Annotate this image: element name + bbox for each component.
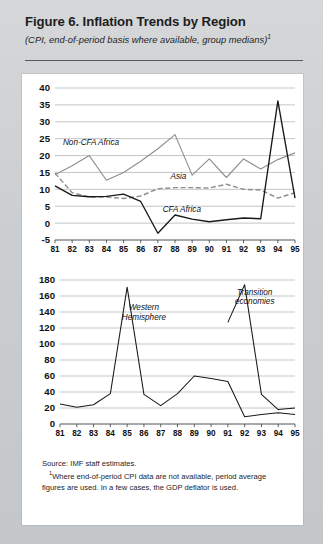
y-axis-tick-label: 5 (45, 201, 51, 212)
series-line-western-hemisphere (60, 287, 295, 417)
y-axis-tick-label: 35 (39, 99, 50, 110)
chart1-svg: -505101520253035408182838485868788899091… (22, 80, 303, 262)
source-note: Source: IMF staff estimates. (42, 458, 291, 469)
y-axis-tick-label: 20 (44, 402, 55, 413)
footnote-note: 1Where end-of-period CPI data are not av… (42, 469, 291, 493)
footnote-text: Where end-of-period CPI data are not ava… (42, 472, 266, 492)
y-axis-tick-label: 0 (45, 218, 50, 229)
series-annotation: Western (129, 303, 160, 312)
y-axis-tick-label: 40 (44, 386, 55, 397)
x-axis-tick-label: 91 (223, 429, 233, 438)
x-axis-tick-label: 95 (290, 245, 300, 254)
figure-subtitle: (CPI, end-of-period basis where availabl… (25, 33, 305, 46)
subtitle-footnote-marker: 1 (267, 33, 271, 40)
y-axis-tick-label: 30 (39, 116, 50, 127)
y-axis-tick-label: 160 (39, 290, 55, 301)
y-axis-tick-label: 40 (39, 82, 50, 93)
x-axis-tick-label: 86 (139, 429, 149, 438)
y-axis-tick-label: 180 (39, 274, 55, 285)
x-axis-tick-label: 81 (50, 245, 60, 254)
y-axis-tick-label: -5 (41, 234, 50, 245)
figure-container: Figure 6. Inflation Trends by Region (CP… (0, 0, 323, 544)
chart-inflation-hemisphere-transition: 0204060801001201401601808182838485868788… (22, 270, 303, 446)
page-title: Figure 6. Inflation Trends by Region (25, 14, 305, 29)
x-axis-tick-label: 94 (273, 245, 283, 254)
x-axis-tick-label: 82 (68, 245, 78, 254)
x-axis-tick-label: 88 (173, 429, 183, 438)
x-axis-tick-label: 85 (123, 429, 133, 438)
chart-inflation-regions: -505101520253035408182838485868788899091… (22, 80, 303, 262)
x-axis-tick-label: 86 (136, 245, 146, 254)
x-axis-tick-label: 90 (205, 245, 215, 254)
series-annotation: Non-CFA Africa (63, 138, 120, 147)
x-axis-tick-label: 93 (257, 429, 267, 438)
x-axis-tick-label: 83 (85, 245, 95, 254)
x-axis-tick-label: 91 (222, 245, 232, 254)
y-axis-tick-label: 0 (50, 418, 55, 429)
x-axis-tick-label: 83 (89, 429, 99, 438)
y-axis-tick-label: 80 (44, 354, 55, 365)
x-axis-tick-label: 92 (240, 429, 250, 438)
x-axis-tick-label: 95 (290, 429, 300, 438)
series-annotation: Transition (237, 288, 273, 297)
chart2-svg: 0204060801001201401601808182838485868788… (22, 270, 303, 446)
x-axis-tick-label: 89 (190, 429, 200, 438)
chart-panel: -505101520253035408182838485868788899091… (22, 74, 303, 525)
y-axis-tick-label: 10 (39, 184, 50, 195)
x-axis-tick-label: 89 (188, 245, 198, 254)
series-annotation: economies (235, 297, 275, 306)
y-axis-tick-label: 140 (39, 306, 55, 317)
x-axis-tick-label: 84 (106, 429, 116, 438)
x-axis-tick-label: 87 (153, 245, 163, 254)
x-axis-tick-label: 84 (102, 245, 112, 254)
y-axis-tick-label: 25 (39, 133, 50, 144)
figure-subtitle-text: (CPI, end-of-period basis where availabl… (25, 34, 267, 45)
series-annotation: Hemisphere (122, 313, 167, 322)
series-annotation: CFA Africa (163, 205, 202, 214)
figure-header: Figure 6. Inflation Trends by Region (CP… (25, 14, 305, 46)
x-axis-tick-label: 85 (119, 245, 129, 254)
x-axis-tick-label: 93 (256, 245, 266, 254)
x-axis-tick-label: 82 (72, 429, 82, 438)
x-axis-tick-label: 88 (170, 245, 180, 254)
y-axis-tick-label: 60 (44, 370, 55, 381)
x-axis-tick-label: 90 (207, 429, 217, 438)
x-axis-tick-label: 94 (274, 429, 284, 438)
x-axis-tick-label: 81 (55, 429, 65, 438)
figure-notes: Source: IMF staff estimates. 1Where end-… (42, 458, 291, 493)
x-axis-tick-label: 92 (239, 245, 249, 254)
series-annotation: Asia (169, 172, 186, 181)
y-axis-tick-label: 100 (39, 338, 55, 349)
y-axis-tick-label: 120 (39, 322, 55, 333)
y-axis-tick-label: 20 (39, 150, 50, 161)
x-axis-tick-label: 87 (156, 429, 166, 438)
y-axis-tick-label: 15 (39, 167, 50, 178)
header-divider (25, 60, 303, 61)
